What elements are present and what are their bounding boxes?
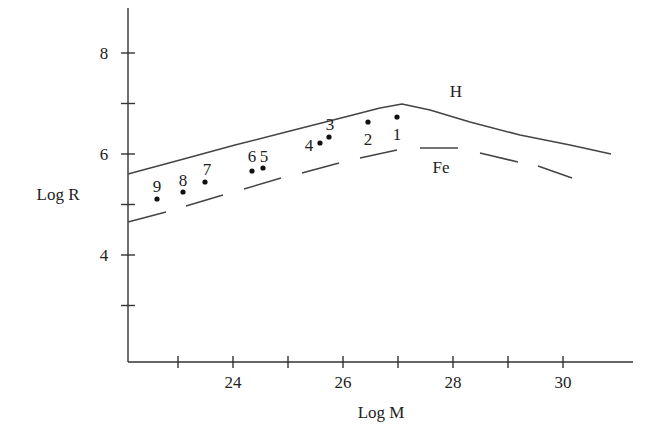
data-point [394,114,399,119]
data-point [180,189,185,194]
point-label: 6 [248,147,257,166]
point-label: 5 [260,147,269,166]
y-axis-title: Log R [37,185,81,204]
y-tick-label: 8 [100,44,109,63]
x-tick-label: 26 [335,373,352,392]
data-point [317,140,322,145]
axes: 24262830468Log MLog R [37,8,633,422]
x-tick-label: 28 [445,373,462,392]
curve-fe-dash [538,166,572,178]
data-point [202,179,207,184]
curve-fe-dash [186,195,223,206]
point-label: 7 [203,160,212,179]
curve-label-h: H [450,82,462,101]
data-point [326,134,331,139]
y-tick-label: 6 [100,145,109,164]
curve-fe-dash [480,153,518,162]
point-label: 3 [326,115,335,134]
curve-fe-dash [128,212,166,222]
data-point [260,165,265,170]
y-tick-label: 4 [100,246,109,265]
curve-label-fe: Fe [433,158,450,177]
point-label: 1 [393,125,402,144]
point-label: 2 [364,130,373,149]
data-point [249,168,254,173]
chart: 24262830468Log MLog R 123456789 HFe [0,0,663,438]
curve-fe-dash [244,178,281,189]
data-point [154,196,159,201]
x-axis-title: Log M [358,403,405,422]
x-tick-label: 24 [225,373,243,392]
x-tick-label: 30 [555,373,572,392]
labels: HFe [433,82,463,177]
curve-fe-dash [302,163,339,173]
point-label: 8 [179,171,188,190]
data-point [365,119,370,124]
point-label: 9 [153,177,162,196]
point-label: 4 [305,136,314,155]
curve-fe-dash [360,150,397,158]
